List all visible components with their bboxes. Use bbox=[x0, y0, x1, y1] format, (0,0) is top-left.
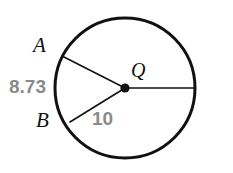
radius-length-label: 10 bbox=[92, 109, 113, 128]
point-label-b: B bbox=[36, 110, 49, 131]
geometry-figure-canvas: A B Q 8.73 10 bbox=[0, 0, 233, 173]
center-point-dot bbox=[120, 83, 129, 92]
point-label-a: A bbox=[33, 35, 46, 56]
center-label-q: Q bbox=[131, 60, 145, 80]
chord-length-label: 8.73 bbox=[9, 77, 46, 96]
radius-line-qa bbox=[62, 56, 125, 88]
